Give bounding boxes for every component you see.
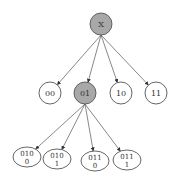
node-label: 10 [116,89,126,98]
nodes: X000110110100010101100111 [13,13,167,171]
tree-node-00: 00 [39,82,61,104]
node-label-line: 0 [25,158,29,166]
tree-node-01: 01 [74,82,96,104]
edge-n01-n0111 [85,104,120,151]
edge-n01-n0110 [85,104,93,151]
tree-node-0101: 0101 [43,149,71,169]
node-label-line: 1 [125,161,129,169]
edge-n01-n0100 [36,104,85,149]
tree-node-0100: 0100 [13,147,41,167]
tree-node-11: 11 [145,82,167,104]
tree-node-10: 10 [110,82,132,104]
tree-node-0110: 0110 [81,151,109,171]
node-label-line: 1 [55,160,59,168]
node-label: 01 [80,89,90,98]
node-label-line: 0 [93,162,97,170]
node-label: 11 [151,89,161,98]
edge-root-n11 [101,35,148,85]
node-label: X [98,20,104,29]
tree-diagram: X000110110100010101100111 [0,0,181,186]
edge-n01-n0101 [62,104,85,150]
tree-node-X: X [90,13,112,35]
tree-node-0111: 0111 [113,150,141,170]
node-label: 00 [45,89,55,98]
edge-root-n10 [101,35,117,83]
